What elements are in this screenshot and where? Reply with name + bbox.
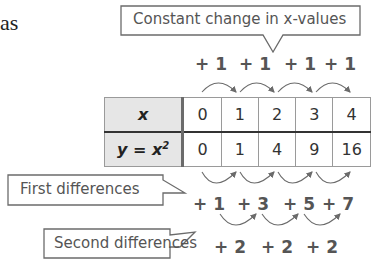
x-change-3: + 1 <box>284 54 316 74</box>
table-row-x: x 0 1 2 3 4 <box>105 98 371 133</box>
row-header-x: x <box>105 98 183 133</box>
x-change-1: + 1 <box>195 54 227 74</box>
second-difference-2: + 2 <box>261 237 293 257</box>
table-cell: 9 <box>296 132 333 167</box>
values-table: x 0 1 2 3 4 y = x2 0 1 4 9 16 <box>104 97 371 167</box>
table-cell: 1 <box>221 132 258 167</box>
table-row-y: y = x2 0 1 4 9 16 <box>105 132 371 167</box>
table-cell: 4 <box>333 98 371 133</box>
table-cell: 0 <box>183 98 221 133</box>
callout-first-differences-label: First differences <box>20 180 139 198</box>
first-difference-3: + 5 <box>283 194 315 214</box>
table-cell: 2 <box>258 98 295 133</box>
row-header-y: y = x2 <box>105 132 183 167</box>
callout-second-differences-label: Second differences <box>54 234 197 252</box>
table-cell: 1 <box>221 98 258 133</box>
table-cell: 0 <box>183 132 221 167</box>
table-cell: 16 <box>333 132 371 167</box>
second-difference-1: + 2 <box>214 237 246 257</box>
first-difference-arrows <box>202 172 350 183</box>
second-difference-arrows <box>220 214 340 225</box>
x-change-2: + 1 <box>239 54 271 74</box>
second-difference-3: + 2 <box>306 237 338 257</box>
table-cell: 3 <box>296 98 333 133</box>
first-difference-2: + 3 <box>237 194 269 214</box>
callout-x-change-label: Constant change in x-values <box>133 10 346 28</box>
table-cell: 4 <box>258 132 295 167</box>
first-difference-4: + 7 <box>322 194 354 214</box>
first-difference-1: + 1 <box>193 194 225 214</box>
x-change-arrows <box>202 83 350 92</box>
x-change-4: + 1 <box>324 54 356 74</box>
